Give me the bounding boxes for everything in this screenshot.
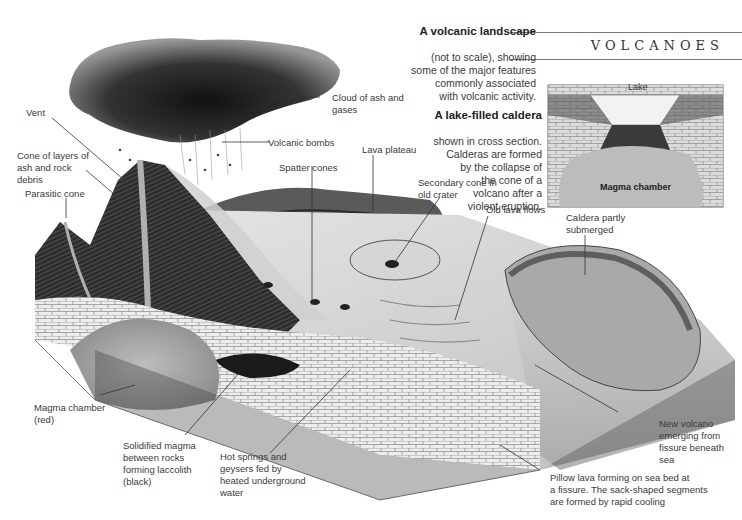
section-header: VOLCANOES xyxy=(510,32,742,60)
spatter-cone-1 xyxy=(263,282,273,288)
spatter-cone-3 xyxy=(340,304,350,310)
spatter-cone-2 xyxy=(310,299,320,305)
label-cone-layers: Cone of layers of ash and rock debris xyxy=(17,150,89,186)
label-new-volcano: New volcano emerging from fissure beneat… xyxy=(659,418,724,466)
inset-label-lake: Lake xyxy=(628,82,648,92)
inset-caption-title: A lake-filled caldera xyxy=(410,109,542,122)
main-caption-body: (not to scale), showing some of the majo… xyxy=(411,51,536,102)
main-caption-title: A volcanic landscape xyxy=(340,25,536,38)
label-hot-springs: Hot springs and geysers fed by heated un… xyxy=(220,451,306,499)
ash-cloud-shape xyxy=(69,38,340,142)
label-old-lava-flows: Old lava flows xyxy=(486,204,545,216)
label-parasitic-cone: Parasitic cone xyxy=(25,188,85,200)
label-magma-chamber: Magma chamber (red) xyxy=(34,402,105,426)
label-spatter-cones: Spatter cones xyxy=(279,162,338,174)
label-laccolith: Solidified magma between rocks forming l… xyxy=(123,440,196,488)
label-vent: Vent xyxy=(26,107,45,119)
label-cloud: Cloud of ash and gases xyxy=(332,92,404,116)
old-crater xyxy=(350,240,440,280)
label-secondary-cone: Secondary cone in old crater xyxy=(418,177,497,201)
volcano-diagram: VOLCANOES A volcanic landscape (not to s… xyxy=(0,0,742,520)
secondary-cone xyxy=(385,260,399,268)
label-volcanic-bombs: Volcanic bombs xyxy=(268,137,335,149)
label-lava-plateau: Lava plateau xyxy=(362,144,416,156)
main-caption: A volcanic landscape (not to scale), sho… xyxy=(340,12,536,103)
label-pillow-lava: Pillow lava forming on sea bed at a fiss… xyxy=(550,472,708,508)
label-caldera-submerged: Caldera partly submerged xyxy=(566,212,625,236)
section-title: VOLCANOES xyxy=(591,38,724,53)
inset-label-magma-chamber: Magma chamber xyxy=(600,182,671,192)
